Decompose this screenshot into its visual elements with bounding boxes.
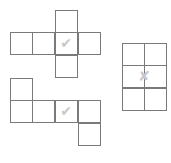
net-square	[10, 78, 33, 101]
check-icon: ✔	[55, 104, 77, 118]
net-square	[122, 43, 145, 66]
net-square	[144, 88, 167, 111]
net-square	[55, 55, 78, 78]
net-square	[78, 32, 101, 55]
cross-icon: ✘	[133, 69, 155, 83]
net-square	[78, 123, 101, 146]
net-square	[10, 32, 33, 55]
net-square	[55, 10, 78, 33]
net-square	[10, 100, 33, 123]
net-square	[78, 100, 101, 123]
net-square	[122, 88, 145, 111]
net-square	[32, 100, 55, 123]
net-square	[144, 43, 167, 66]
net-square	[32, 32, 55, 55]
check-icon: ✔	[55, 36, 77, 50]
